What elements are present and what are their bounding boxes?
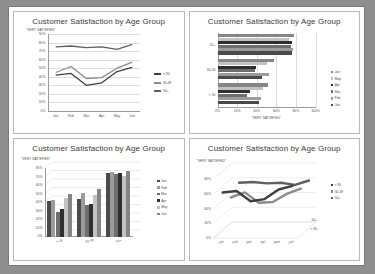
x-axis-tick: Jun bbox=[125, 114, 140, 118]
y-axis-tick: 70% bbox=[25, 175, 43, 179]
legend-swatch-feb bbox=[157, 186, 160, 189]
legend-label: Apr bbox=[161, 199, 166, 203]
legend-label: 30-49 bbox=[335, 190, 343, 194]
category-label: < 30 bbox=[198, 93, 216, 97]
y-axis-tick: 10% bbox=[25, 226, 43, 230]
legend-swatch-feb bbox=[331, 97, 334, 100]
legend-item[interactable]: Feb bbox=[157, 186, 167, 190]
legend-item[interactable]: May bbox=[157, 205, 167, 209]
x-axis-tick: Jan bbox=[48, 114, 63, 118]
legend-label: Apr bbox=[335, 83, 340, 87]
worksheet-page: Customer Satisfaction by Age Group "VERY… bbox=[8, 6, 365, 266]
legend-bar-horizontal[interactable]: JunMayAprMarFebJan bbox=[331, 70, 341, 110]
x-axis-tick: 20% bbox=[229, 109, 245, 113]
gridline bbox=[316, 33, 317, 107]
legend-item[interactable]: Apr bbox=[331, 83, 341, 87]
plot-area-column-3d: 0%10%20%30%40%50%60%70%80%< 3030-4950+ bbox=[45, 162, 140, 236]
line-3d-series-group bbox=[214, 163, 316, 242]
x-axis-tick: 80% bbox=[288, 109, 304, 113]
legend-swatch-jan bbox=[157, 180, 160, 183]
legend-swatch-mar bbox=[157, 193, 160, 196]
legend-label: Jan bbox=[161, 179, 166, 183]
legend-item[interactable]: Jan bbox=[331, 103, 341, 107]
legend-label: Mar bbox=[161, 192, 167, 196]
x-axis-tick: Feb bbox=[63, 114, 78, 118]
category-label: 50+ bbox=[198, 43, 216, 47]
legend-swatch-a30_49 bbox=[154, 82, 161, 84]
legend-line-2d[interactable]: < 3030-4950+ bbox=[154, 72, 171, 98]
column-jun-0 bbox=[68, 193, 72, 237]
y-axis-tick: 60% bbox=[26, 58, 46, 62]
legend-label: Jan bbox=[335, 103, 340, 107]
legend-item[interactable]: Jan bbox=[157, 179, 167, 183]
legend-swatch-a50plus bbox=[331, 197, 334, 200]
column-jun-1 bbox=[97, 188, 101, 238]
legend-label: Feb bbox=[161, 186, 167, 190]
x-axis-tick: 100% bbox=[308, 109, 324, 113]
y-axis-line bbox=[45, 168, 46, 236]
legend-item[interactable]: Jun bbox=[157, 212, 167, 216]
line-series-50- bbox=[56, 44, 133, 49]
legend-item[interactable]: Jun bbox=[331, 70, 341, 74]
legend-item[interactable]: 30-49 bbox=[154, 81, 171, 85]
legend-swatch-jun bbox=[157, 213, 160, 216]
legend-item[interactable]: Mar bbox=[157, 192, 167, 196]
y-axis-tick: 20% bbox=[195, 221, 211, 225]
category-label: 50+ bbox=[104, 236, 134, 246]
legend-column-3d[interactable]: JanFebMarAprMayJun bbox=[157, 179, 167, 219]
y-axis-tick: 90% bbox=[26, 32, 46, 36]
x-axis-line bbox=[218, 107, 316, 108]
legend-label: Jun bbox=[335, 70, 340, 74]
chart-panel-column-3d[interactable]: Customer Satisfaction by Age Group "VERY… bbox=[13, 138, 185, 261]
legend-swatch-a50plus bbox=[154, 90, 161, 92]
chart-title: Customer Satisfaction by Age Group bbox=[190, 144, 360, 153]
legend-label: May bbox=[161, 205, 167, 209]
legend-item[interactable]: May bbox=[331, 77, 341, 81]
chart-title: Customer Satisfaction by Age Group bbox=[14, 17, 184, 26]
x-axis-line bbox=[48, 111, 140, 112]
legend-swatch-may bbox=[157, 206, 160, 209]
bar-jan-0 bbox=[218, 101, 259, 104]
legend-item[interactable]: 50+ bbox=[154, 89, 171, 93]
y-axis-tick: 0% bbox=[26, 109, 46, 113]
legend-item[interactable]: Feb bbox=[331, 96, 341, 100]
y-axis-tick: 20% bbox=[26, 92, 46, 96]
legend-item[interactable]: 50+ bbox=[331, 196, 344, 200]
x-axis-tick: Apr bbox=[94, 114, 109, 118]
y-axis-tick: 30% bbox=[25, 209, 43, 213]
y-axis-tick: 40% bbox=[26, 75, 46, 79]
line-series--30 bbox=[56, 67, 133, 85]
legend-line-3d[interactable]: < 3030-4950+ bbox=[331, 183, 344, 203]
bar-jan-1 bbox=[218, 76, 262, 79]
legend-label: May bbox=[335, 77, 341, 81]
chart-grid: Customer Satisfaction by Age Group "VERY… bbox=[13, 11, 360, 261]
chart-panel-line-2d[interactable]: Customer Satisfaction by Age Group "VERY… bbox=[13, 11, 185, 134]
legend-label: 30-49 bbox=[163, 81, 171, 85]
chart-panel-line-3d[interactable]: Customer Satisfaction by Age Group "VERY… bbox=[189, 138, 361, 261]
line-3d-series--30 bbox=[222, 186, 292, 202]
legend-item[interactable]: 30-49 bbox=[331, 190, 344, 194]
legend-item[interactable]: < 30 bbox=[154, 72, 171, 76]
y-axis-tick: 0% bbox=[195, 236, 211, 240]
plot-area-line-2d: 0%10%20%30%40%50%60%70%80%90%JanFebMarAp… bbox=[48, 34, 140, 111]
legend-swatch-jan bbox=[331, 104, 334, 107]
legend-swatch-apr bbox=[331, 84, 334, 87]
category-label: < 30 bbox=[45, 236, 75, 246]
y-axis-tick: 50% bbox=[26, 66, 46, 70]
chart-title: Customer Satisfaction by Age Group bbox=[190, 17, 360, 26]
chart-panel-bar-horizontal[interactable]: Customer Satisfaction by Age Group 0%20%… bbox=[189, 11, 361, 134]
chart-title: Customer Satisfaction by Age Group bbox=[14, 144, 184, 153]
y-axis-tick: 80% bbox=[26, 41, 46, 45]
legend-label: 50+ bbox=[163, 89, 169, 93]
legend-swatch-lt30 bbox=[154, 73, 161, 75]
legend-item[interactable]: Apr bbox=[157, 199, 167, 203]
legend-item[interactable]: Mar bbox=[331, 90, 341, 94]
legend-item[interactable]: < 30 bbox=[331, 183, 344, 187]
y-axis-tick: 20% bbox=[25, 217, 43, 221]
legend-label: Jun bbox=[161, 212, 166, 216]
bar-jan-2 bbox=[218, 51, 292, 54]
legend-swatch-apr bbox=[157, 199, 160, 202]
y-axis-tick: 70% bbox=[26, 49, 46, 53]
y-axis-tick: 0% bbox=[25, 234, 43, 238]
legend-label: Feb bbox=[335, 96, 341, 100]
